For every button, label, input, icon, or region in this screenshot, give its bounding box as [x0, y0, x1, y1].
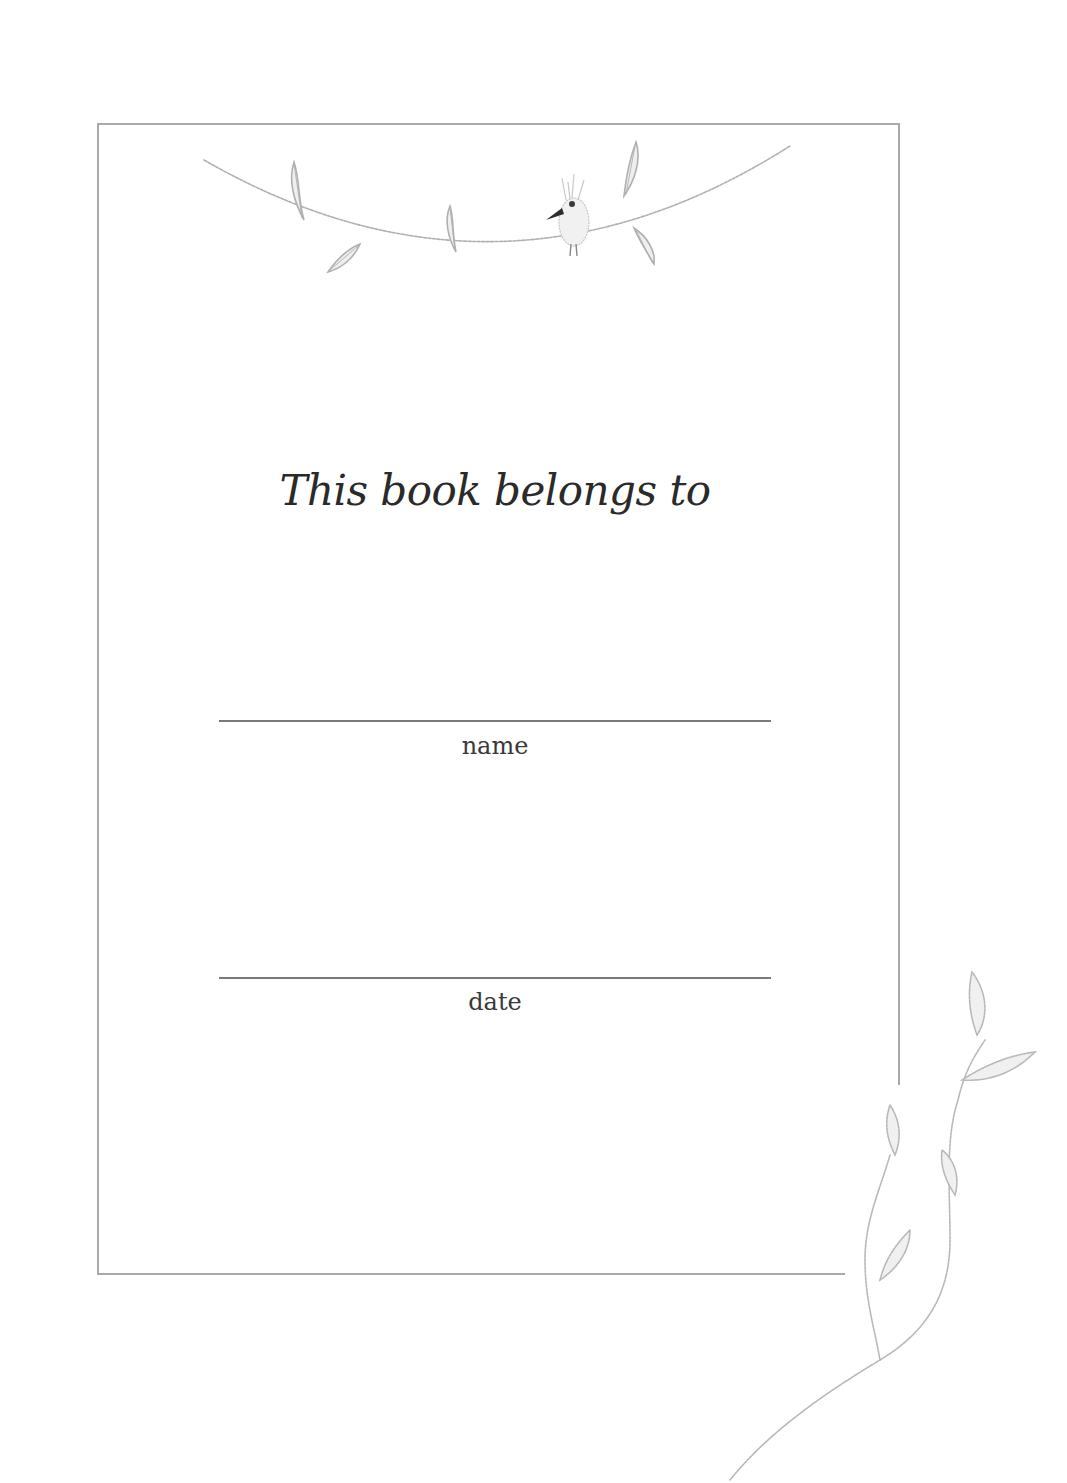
date-field-label: date	[219, 990, 771, 1014]
frame-left-border	[97, 123, 99, 1274]
name-signature-line[interactable]	[219, 720, 771, 722]
garland-bird-illustration-icon	[190, 130, 810, 290]
page-title: This book belongs to	[0, 470, 990, 512]
frame-top-border	[97, 123, 900, 125]
name-field-label: name	[219, 734, 771, 758]
date-signature-line[interactable]	[219, 977, 771, 979]
frame-right-border	[898, 123, 900, 1085]
leafy-vine-illustration-icon	[700, 960, 1067, 1483]
